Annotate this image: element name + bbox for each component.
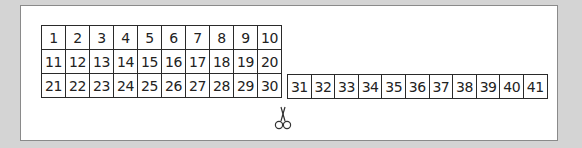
grid-cell: 23: [90, 74, 114, 98]
grid-cell: 27: [186, 74, 210, 98]
grid-cell: 1: [42, 26, 66, 50]
strip-cell: 32: [312, 75, 336, 99]
grid-cell: 5: [138, 26, 162, 50]
strip-cell: 37: [430, 75, 454, 99]
grid-cell: 17: [186, 50, 210, 74]
grid-cell: 25: [138, 74, 162, 98]
grid-cell: 21: [42, 74, 66, 98]
number-grid-1-to-30: 1234567891011121314151617181920212223242…: [41, 25, 282, 98]
number-strip-31-to-41: 3132333435363738394041: [287, 74, 548, 99]
strip-cell: 41: [524, 75, 548, 99]
grid-cell: 3: [90, 26, 114, 50]
grid-cell: 24: [114, 74, 138, 98]
strip-cell: 40: [500, 75, 524, 99]
grid-cell: 10: [258, 26, 282, 50]
grid-cell: 18: [210, 50, 234, 74]
strip-cell: 36: [406, 75, 430, 99]
grid-cell: 16: [162, 50, 186, 74]
strip-cell: 31: [288, 75, 312, 99]
grid-cell: 6: [162, 26, 186, 50]
grid-cell: 14: [114, 50, 138, 74]
grid-cell: 7: [186, 26, 210, 50]
grid-cell: 13: [90, 50, 114, 74]
grid-cell: 9: [234, 26, 258, 50]
strip-cell: 34: [359, 75, 383, 99]
grid-cell: 20: [258, 50, 282, 74]
grid-cell: 28: [210, 74, 234, 98]
grid-cell: 15: [138, 50, 162, 74]
scissors-icon: [273, 106, 293, 132]
grid-cell: 8: [210, 26, 234, 50]
grid-cell: 19: [234, 50, 258, 74]
grid-cell: 22: [66, 74, 90, 98]
grid-cell: 4: [114, 26, 138, 50]
strip-cell: 35: [382, 75, 406, 99]
grid-cell: 11: [42, 50, 66, 74]
strip-cell: 38: [453, 75, 477, 99]
grid-cell: 26: [162, 74, 186, 98]
grid-cell: 29: [234, 74, 258, 98]
strip-cell: 39: [477, 75, 501, 99]
grid-cell: 12: [66, 50, 90, 74]
strip-cell: 33: [335, 75, 359, 99]
grid-cell: 2: [66, 26, 90, 50]
grid-cell: 30: [258, 74, 282, 98]
